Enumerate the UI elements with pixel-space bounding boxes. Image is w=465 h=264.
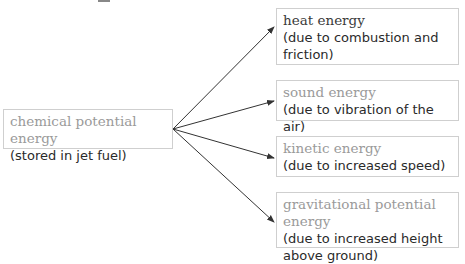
source-box: chemical potential energy (stored in jet…	[3, 109, 173, 149]
target-title: sound energy	[283, 84, 452, 101]
source-description: (stored in jet fuel)	[10, 147, 166, 164]
target-title: heat energy	[283, 12, 452, 29]
target-description: (due to increased height above ground)	[283, 230, 452, 264]
target-title: kinetic energy	[283, 140, 452, 157]
source-title: chemical potential energy	[10, 113, 166, 147]
arrow-to-heat	[173, 27, 274, 129]
target-title: gravitational potential energy	[283, 196, 452, 230]
target-description: (due to combustion and friction)	[283, 29, 452, 63]
target-description: (due to vibration of the air)	[283, 101, 452, 135]
arrow-to-gravitational	[173, 129, 274, 222]
target-box-sound: sound energy (due to vibration of the ai…	[276, 80, 459, 121]
target-box-kinetic: kinetic energy (due to increased speed)	[276, 136, 459, 177]
arrow-to-sound	[173, 101, 274, 129]
target-description: (due to increased speed)	[283, 157, 452, 174]
target-box-gravitational: gravitational potential energy (due to i…	[276, 192, 459, 248]
target-box-heat: heat energy (due to combustion and frict…	[276, 8, 459, 65]
